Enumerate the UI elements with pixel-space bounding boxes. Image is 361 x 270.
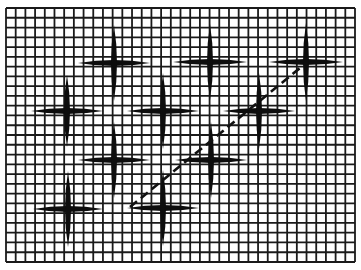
grid-cross-diagram (0, 0, 361, 270)
diagram-canvas (0, 0, 361, 270)
